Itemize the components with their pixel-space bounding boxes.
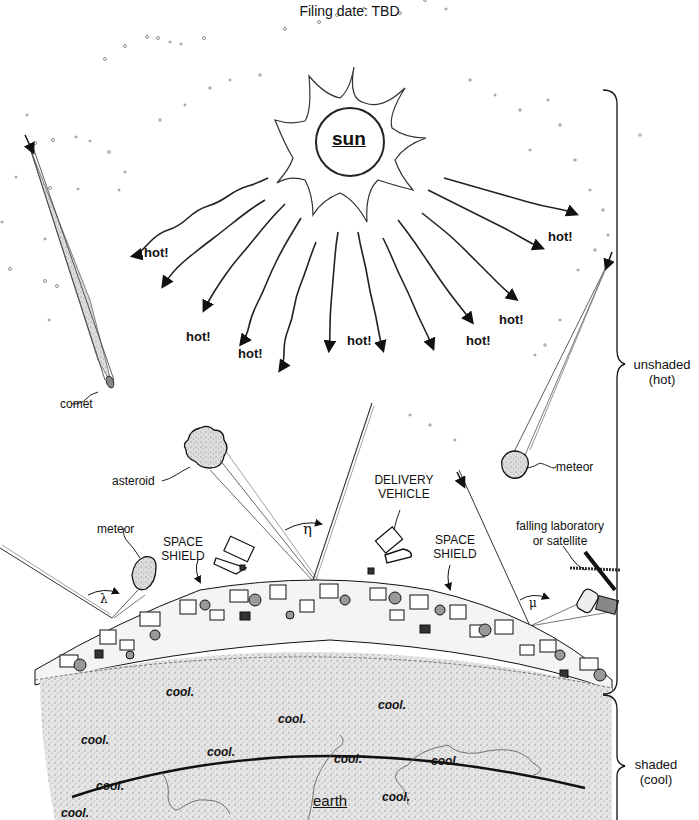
delivery-vehicle-drawing — [375, 510, 411, 563]
earth-label: earth — [313, 792, 347, 809]
comet-label: comet — [60, 397, 93, 411]
meteor-right-label: meteor — [556, 460, 593, 474]
cool-label: cool. — [382, 790, 410, 804]
hot-label: hot! — [186, 329, 211, 344]
hot-label: hot! — [238, 346, 263, 361]
sun-label: sun — [332, 128, 366, 150]
lambda-angle-label: λ — [100, 592, 108, 606]
filing-date: Filing date: TBD — [0, 3, 699, 19]
comet-drawing — [25, 135, 115, 404]
cool-label: cool. — [431, 754, 459, 768]
cool-label: cool. — [278, 712, 306, 726]
cool-label: cool. — [81, 733, 109, 747]
meteor-left-drawing — [0, 528, 156, 618]
illustration-drawing — [0, 0, 699, 820]
meteor-left-label: meteor — [97, 522, 134, 536]
patent-illustration: Filing date: TBD sun earth hot! hot! hot… — [0, 0, 699, 820]
hot-label: hot! — [466, 333, 491, 348]
cool-label: cool. — [378, 698, 406, 712]
delivery-vehicle-label: DELIVERY VEHICLE — [371, 473, 437, 501]
shaded-region-label: shaded (cool) — [626, 757, 686, 787]
cool-label: cool. — [334, 752, 362, 766]
stars — [1, 0, 641, 441]
cool-label: cool. — [166, 685, 194, 699]
hot-label: hot! — [548, 229, 573, 244]
cool-label: cool. — [207, 745, 235, 759]
hot-label: hot! — [347, 333, 372, 348]
space-shield-right-label: SPACE SHIELD — [430, 533, 480, 561]
mu-angle-label: μ — [529, 596, 537, 610]
hot-label: hot! — [499, 312, 524, 327]
meteor-right-drawing — [502, 252, 612, 478]
asteroid-label: asteroid — [112, 474, 155, 488]
cool-label: cool. — [61, 806, 89, 820]
hot-label: hot! — [144, 245, 169, 260]
delivery-vehicle-left-drawing — [214, 536, 254, 574]
space-shield-left-label: SPACE SHIELD — [158, 535, 208, 563]
unshaded-region-label: unshaded (hot) — [626, 357, 698, 387]
falling-lab-label: falling laboratory or satellite — [508, 519, 612, 549]
cool-label: cool. — [96, 779, 124, 793]
eta-angle-label: η — [303, 520, 312, 538]
